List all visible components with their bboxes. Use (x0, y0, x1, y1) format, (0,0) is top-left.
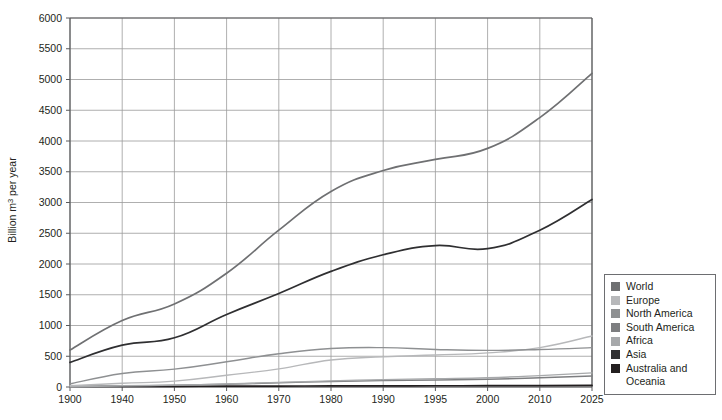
legend-item-label: Asia (626, 348, 646, 362)
legend-swatch-icon (611, 364, 620, 373)
chart-legend: WorldEuropeNorth AmericaSouth AmericaAfr… (604, 274, 716, 395)
x-axis-label: 1900 (58, 393, 82, 405)
x-axis-label: 1950 (163, 393, 187, 405)
legend-item: Africa (611, 334, 708, 348)
legend-swatch-icon (611, 323, 620, 332)
legend-items: WorldEuropeNorth AmericaSouth AmericaAfr… (611, 280, 708, 375)
y-axis-label: 6000 (39, 12, 63, 24)
y-axis-label: 3500 (39, 165, 63, 177)
y-axis-label: 2000 (39, 258, 63, 270)
x-axis-label: 1960 (215, 393, 239, 405)
legend-item: South America (611, 321, 708, 335)
legend-item: Asia (611, 348, 708, 362)
legend-swatch-icon (611, 337, 620, 346)
y-axis-label: 2500 (39, 227, 63, 239)
legend-item: Europe (611, 294, 708, 308)
x-axis-label: 2025 (580, 393, 604, 405)
x-axis-label: 1940 (111, 393, 135, 405)
y-axis-title-suffix: per year (6, 157, 18, 199)
y-axis-title: Billion m3 per year (6, 157, 18, 243)
legend-swatch-icon (611, 296, 620, 305)
y-axis-label: 4000 (39, 135, 63, 147)
y-axis-title-prefix: Billion m (6, 203, 18, 243)
legend-item-label: Australia and (626, 362, 687, 376)
x-axis-label: 2000 (476, 393, 500, 405)
x-axis-label: 1990 (372, 393, 396, 405)
x-axis-label: 1980 (319, 393, 343, 405)
y-axis-label: 1000 (39, 319, 63, 331)
y-axis-label: 4500 (39, 104, 63, 116)
y-axis-label: 3000 (39, 196, 63, 208)
legend-item-label: Europe (626, 294, 660, 308)
legend-item: World (611, 280, 708, 294)
x-axis-label: 1995 (424, 393, 448, 405)
y-axis-label: 500 (44, 350, 62, 362)
y-axis-label: 1500 (39, 288, 63, 300)
legend-item-label: North America (626, 307, 693, 321)
chart-container: 0500100015002000250030003500400045005000… (0, 0, 722, 420)
legend-item-label: World (626, 280, 653, 294)
x-axis-label: 1970 (267, 393, 291, 405)
legend-item: Australia and (611, 362, 708, 376)
y-axis-label: 5500 (39, 42, 63, 54)
legend-item: North America (611, 307, 708, 321)
x-axis-label: 2010 (528, 393, 552, 405)
y-axis-label: 0 (56, 381, 62, 393)
y-axis-label: 5000 (39, 73, 63, 85)
legend-item-label: South America (626, 321, 694, 335)
legend-swatch-icon (611, 350, 620, 359)
legend-swatch-icon (611, 309, 620, 318)
legend-item-label-continuation: Oceania (611, 375, 708, 389)
legend-swatch-icon (611, 282, 620, 291)
legend-item-label: Africa (626, 334, 653, 348)
